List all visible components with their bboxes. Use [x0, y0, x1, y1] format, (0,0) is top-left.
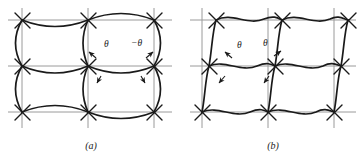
arrow-upper-left: [89, 52, 96, 58]
arc-v-right-lower: [154, 66, 161, 112]
panel-a-arrows: [89, 52, 153, 83]
arc-v-mid-upper: [83, 20, 88, 66]
panel-b: θ θ (b): [182, 0, 364, 155]
theta-negative-label: −θ: [131, 38, 142, 48]
arrow-upper-left: [225, 52, 232, 58]
arc-h-top-right: [88, 14, 154, 21]
panel-b-caption: (b): [182, 140, 364, 151]
arc-h-bot-left: [22, 106, 88, 113]
theta-left-label: θ: [237, 40, 242, 50]
arc-v-right-upper: [154, 20, 161, 66]
theta-right-label: θ: [263, 38, 268, 48]
panel-a-drawing: θ −θ: [0, 0, 182, 135]
panel-b-drawing: θ θ: [182, 0, 364, 135]
arrow-lower-right: [141, 76, 145, 83]
arc-h-bot-right: [88, 112, 154, 119]
arrow-lower-left: [219, 76, 225, 83]
panel-a-caption: (a): [0, 140, 182, 151]
arc-h-top-left: [22, 20, 88, 27]
arrow-upper-right: [146, 52, 153, 58]
theta-positive-label: θ: [104, 39, 109, 49]
arc-h-mid-right: [88, 66, 154, 73]
figure-container: θ −θ (a): [0, 0, 364, 155]
arc-h-mid-left: [22, 66, 88, 73]
arc-v-mid-lower: [83, 66, 88, 112]
arrow-lower-left: [97, 76, 101, 83]
panel-a: θ −θ (a): [0, 0, 182, 155]
